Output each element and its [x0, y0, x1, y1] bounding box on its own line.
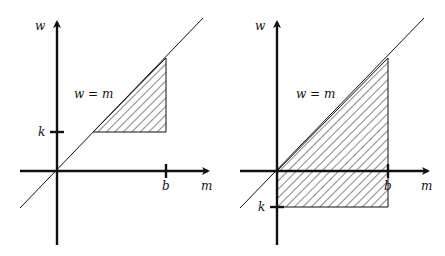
b-label: b: [162, 179, 170, 193]
right-panel: w m w = m b k: [240, 18, 432, 245]
left-panel: w m w = m b k: [20, 18, 212, 245]
line-label: w = m: [296, 87, 335, 101]
diagram-canvas: w m w = m b k w m w = m b k: [0, 0, 445, 256]
y-axis-label: w: [35, 19, 46, 33]
x-axis-label: m: [421, 179, 432, 193]
line-label: w = m: [74, 87, 113, 101]
x-axis-label: m: [201, 179, 212, 193]
hatched-region: [277, 58, 388, 207]
k-label: k: [38, 125, 45, 139]
diagonal-line: [20, 18, 203, 208]
y-axis-label: w: [255, 19, 266, 33]
b-label: b: [384, 179, 392, 193]
k-label: k: [258, 200, 265, 214]
